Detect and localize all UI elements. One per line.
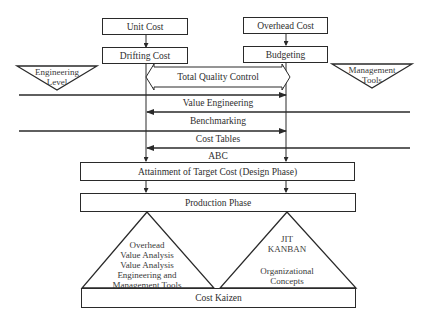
left-triangle-line-1: Overhead	[107, 240, 187, 250]
unit-cost-box: Unit Cost	[102, 18, 188, 35]
left-triangle-text: Overhead Value Analysis Value Analysis E…	[107, 240, 187, 290]
left-triangle-line-2: Value Analysis	[107, 250, 187, 260]
left-triangle-line-4: Engineering and	[107, 270, 187, 280]
cost-tables-label: Cost Tables	[150, 134, 286, 145]
drifting-cost-box: Drifting Cost	[102, 47, 188, 64]
benchmarking-label: Benchmarking	[150, 116, 286, 127]
engineering-level-line-1: Engineering	[27, 67, 87, 77]
concepts-label: Concepts	[252, 276, 322, 286]
management-tools-line-2: Tools	[342, 75, 402, 85]
jit-label: JIT	[257, 234, 317, 244]
right-triangle-top-text: JIT KANBAN	[257, 234, 317, 254]
engineering-level-label: Engineering Level	[27, 67, 87, 87]
kanban-label: KANBAN	[257, 244, 317, 254]
abc-label: ABC	[150, 151, 286, 162]
right-triangle-bottom-text: Organizational Concepts	[252, 266, 322, 286]
tqc-label: Total Quality Control	[150, 72, 286, 83]
management-tools-line-1: Management	[342, 65, 402, 75]
management-tools-label: Management Tools	[342, 65, 402, 85]
overhead-cost-box: Overhead Cost	[243, 17, 328, 34]
budgeting-box: Budgeting	[243, 46, 328, 63]
left-triangle-line-3: Value Analysis	[107, 260, 187, 270]
engineering-level-line-2: Level	[27, 77, 87, 87]
attainment-box: Attainment of Target Cost (Design Phase)	[80, 162, 355, 181]
value-engineering-label: Value Engineering	[150, 98, 286, 109]
cost-kaizen-box: Cost Kaizen	[81, 288, 356, 308]
organizational-label: Organizational	[252, 266, 322, 276]
production-box: Production Phase	[80, 193, 356, 212]
